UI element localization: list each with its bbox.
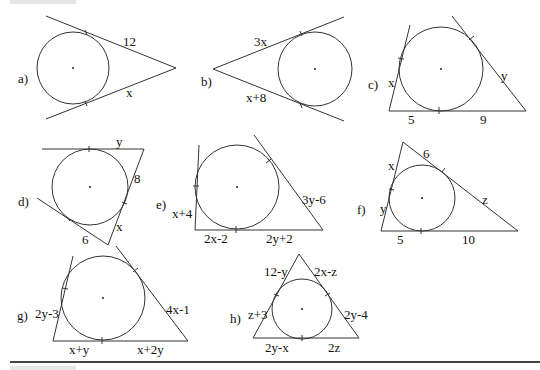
segment-label: 8 [134, 171, 141, 186]
segment-label: 6 [82, 232, 89, 247]
triangle-e [195, 135, 323, 230]
segment-label: 2x-2 [204, 231, 228, 246]
figure-h: h) 12-y 2x-z z+3 2y-4 2y-x 2z [230, 254, 368, 355]
center-point-a [72, 67, 74, 69]
figure-label-h: h) [230, 311, 241, 326]
center-point-d [89, 186, 91, 188]
tangent-tick [62, 288, 68, 289]
center-point-f [421, 197, 423, 199]
tangent-line-lower-a [46, 68, 176, 119]
figure-label-a: a) [18, 71, 28, 86]
center-point-e [236, 186, 238, 188]
figure-label-d: d) [18, 194, 29, 209]
segment-label: z+3 [248, 307, 268, 322]
tangent-diagrams-canvas: a) 12 x b) 3x x+8 c) x y 5 9 d) [0, 0, 540, 370]
segment-label: x+2y [137, 342, 164, 357]
figure-a: a) 12 x [18, 16, 176, 119]
figure-label-g: g) [17, 308, 28, 323]
segment-label: 5 [408, 112, 415, 127]
bottom-divider-line [10, 361, 540, 363]
segment-label: x+y [69, 342, 90, 357]
figure-label-c: c) [368, 77, 378, 92]
tangent-tick [398, 58, 404, 59]
segment-label: 2y-4 [344, 307, 368, 322]
segment-label: 2z [328, 340, 341, 355]
segment-label: x [126, 85, 133, 100]
segment-label: 2y+2 [266, 231, 293, 246]
segment-label: 12 [123, 34, 136, 49]
segment-label: 10 [462, 232, 475, 247]
center-point-g [102, 297, 104, 299]
segment-label: x [388, 75, 395, 90]
figure-c: c) x y 5 9 [368, 16, 526, 127]
center-point-h [301, 308, 303, 310]
segment-label: 3x [254, 34, 268, 49]
segment-label: x [116, 219, 123, 234]
tangent-line-upper-a [46, 16, 176, 68]
center-point-b [314, 68, 316, 70]
segment-label: y [501, 68, 508, 83]
segment-label: x [388, 158, 395, 173]
figure-d: d) y 8 x 6 [18, 134, 144, 247]
bottom-margin-bar [10, 366, 76, 370]
segment-label: y [116, 134, 123, 149]
segment-label: z [482, 192, 488, 207]
figure-b: b) 3x x+8 [201, 17, 352, 121]
segment-label: 2y-3 [35, 306, 59, 321]
segment-label: x+8 [246, 90, 266, 105]
figure-e: e) x+4 3y-6 2x-2 2y+2 [156, 135, 326, 246]
segment-label: 12-y [264, 264, 288, 279]
segment-label: 3y-6 [302, 192, 326, 207]
figure-g: g) 2y-3 4x-1 x+y x+2y [17, 246, 190, 357]
segment-label: 4x-1 [166, 302, 190, 317]
triangle-f [381, 142, 518, 231]
segment-label: 6 [423, 146, 430, 161]
tangent-tick [442, 168, 445, 172]
figure-label-e: e) [156, 197, 166, 212]
segment-label: 5 [397, 232, 404, 247]
segment-label: 9 [480, 112, 487, 127]
segment-label: x+4 [172, 206, 193, 221]
figure-f: f) x 6 y z 5 10 [357, 142, 518, 247]
segment-label: y [380, 201, 387, 216]
center-point-c [440, 68, 442, 70]
segment-label: 2y-x [265, 340, 289, 355]
figure-label-b: b) [201, 74, 212, 89]
figure-label-f: f) [357, 202, 366, 217]
segment-label: 2x-z [314, 264, 337, 279]
